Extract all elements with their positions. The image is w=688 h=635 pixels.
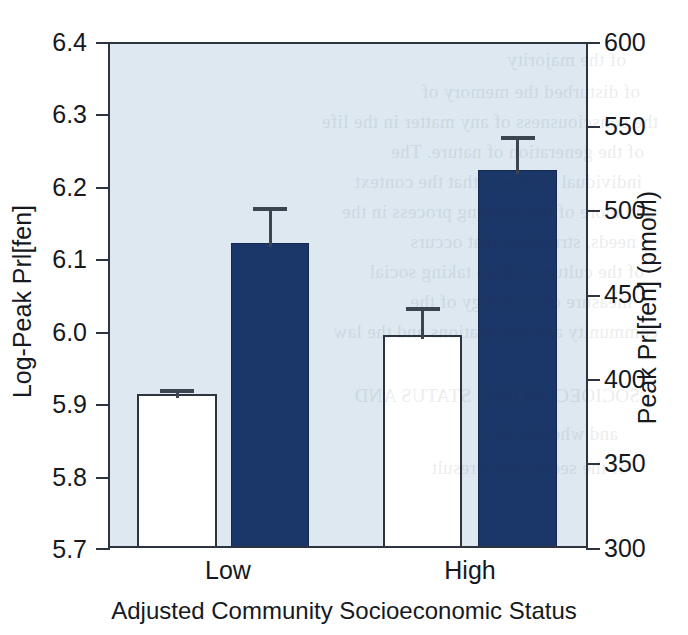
bar-high-open [383, 335, 462, 546]
error-bar-stem [421, 307, 424, 339]
y-tick-left-5-9 [96, 404, 110, 406]
y-tick-left-5-7 [96, 548, 110, 550]
y-tick-label-left-6-2: 6.2 [52, 175, 87, 200]
y-tick-left-6-1 [96, 259, 110, 261]
y-tick-right-400 [586, 379, 600, 381]
error-bar-low-open [137, 389, 217, 398]
x-axis-title: Adjusted Community Socioeconomic Status [0, 597, 688, 625]
bar-low-open [137, 394, 217, 546]
y-tick-label-left-5-8: 5.8 [52, 465, 87, 490]
y-tick-left-5-8 [96, 477, 110, 479]
chart-figure: of the majorityof disturbed the memory o… [0, 0, 688, 635]
error-bar-cap [160, 389, 194, 393]
y-tick-label-left-6-3: 6.3 [52, 102, 87, 127]
y-tick-label-left-6-0: 6.0 [52, 320, 87, 345]
y-tick-label-left-5-9: 5.9 [52, 392, 87, 417]
y-tick-left-6-0 [96, 332, 110, 334]
y-tick-left-6-3 [96, 114, 110, 116]
x-category-label-high: High [410, 556, 530, 585]
error-bar-stem [269, 207, 272, 247]
y-tick-label-right-600: 600 [604, 30, 646, 55]
error-bar-stem [516, 136, 519, 174]
error-bar-cap [501, 136, 535, 140]
error-bar-high-open [383, 307, 462, 339]
y-tick-left-6-4 [96, 42, 110, 44]
plot-inner [110, 44, 586, 546]
error-bar-cap [253, 207, 287, 211]
y-tick-label-left-6-1: 6.1 [52, 247, 87, 272]
y-tick-right-450 [586, 295, 600, 297]
bar-low-filled [231, 243, 309, 546]
y-axis-title-left: Log-Peak Prl[fen] [8, 137, 37, 467]
plot-area [108, 42, 588, 548]
y-axis-title-right: Peak Prl[fen] (pmol/l) [633, 143, 662, 473]
bar-high-filled [478, 170, 557, 546]
y-tick-right-600 [586, 42, 600, 44]
y-tick-right-550 [586, 126, 600, 128]
y-tick-right-500 [586, 210, 600, 212]
y-tick-label-left-6-4: 6.4 [52, 30, 87, 55]
y-tick-label-right-550: 550 [604, 114, 646, 139]
error-bar-high-filled [478, 136, 557, 174]
y-tick-right-350 [586, 463, 600, 465]
y-tick-left-6-2 [96, 187, 110, 189]
y-tick-label-right-300: 300 [604, 536, 646, 561]
x-category-label-low: Low [168, 556, 288, 585]
error-bar-cap [406, 307, 440, 311]
y-tick-right-300 [586, 548, 600, 550]
error-bar-low-filled [231, 207, 309, 247]
y-tick-label-left-5-7: 5.7 [52, 537, 87, 562]
